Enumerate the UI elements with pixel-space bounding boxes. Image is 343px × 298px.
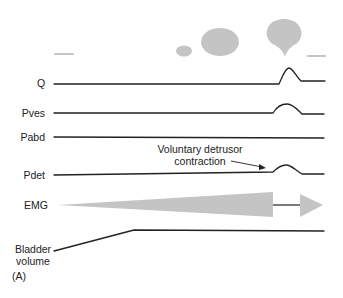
bladder-large xyxy=(201,28,239,56)
annotation-arrow xyxy=(231,161,266,170)
trace-label-bladder-volume-1: Bladder xyxy=(15,243,52,255)
trace-pabd xyxy=(54,137,324,138)
emg-activity-wedge xyxy=(58,192,273,217)
trace-pves xyxy=(54,104,324,114)
trace-label-bladder-volume-2: volume xyxy=(16,255,50,267)
trace-label-q: Q xyxy=(37,77,45,89)
trace-label-emg: EMG xyxy=(24,199,48,211)
panel-label: (A) xyxy=(12,270,26,282)
urodynamics-diagram: Q Pves Pabd Voluntary detrusor contracti… xyxy=(0,0,343,298)
annotation-line1: Voluntary detrusor xyxy=(157,143,243,155)
trace-q xyxy=(54,68,325,84)
emg-arrowhead xyxy=(300,194,323,217)
trace-label-pves: Pves xyxy=(22,107,45,119)
bladder-voiding xyxy=(267,19,302,57)
bladder-illustrations xyxy=(55,19,325,57)
trace-bladder-volume xyxy=(54,230,324,251)
trace-label-pabd: Pabd xyxy=(20,131,45,143)
bladder-small xyxy=(176,46,192,57)
trace-label-pdet: Pdet xyxy=(23,169,45,181)
annotation-line2: contraction xyxy=(174,155,226,167)
